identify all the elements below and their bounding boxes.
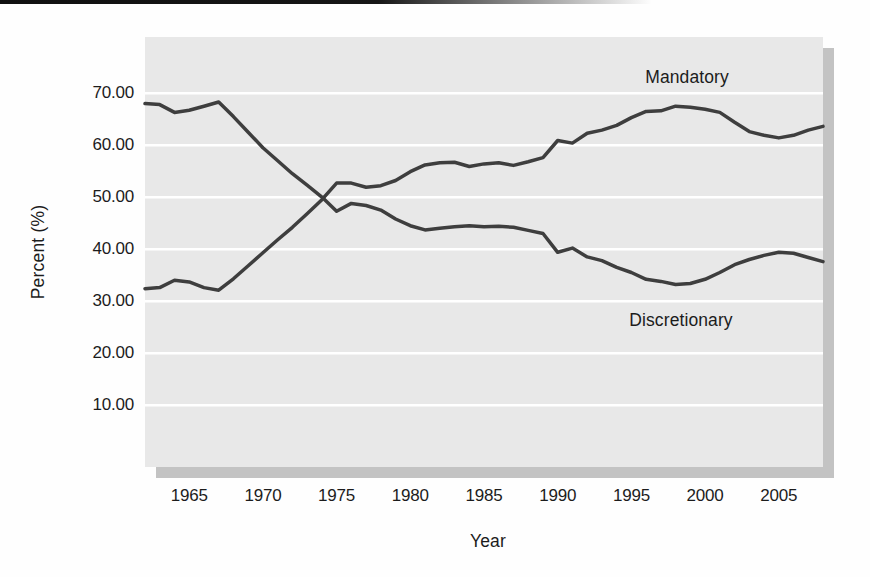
x-tick-label-2000: 2000 (673, 486, 737, 506)
x-tick-label-1965: 1965 (157, 486, 221, 506)
x-tick-label-1980: 1980 (378, 486, 442, 506)
y-axis-title: Percent (%) (28, 205, 49, 300)
x-axis-title: Year (470, 531, 506, 552)
x-tick-label-1985: 1985 (452, 486, 516, 506)
series-label-mandatory: Mandatory (645, 67, 729, 88)
x-tick-label-2005: 2005 (747, 486, 811, 506)
y-tick-label-60.00: 60.00 (58, 135, 134, 155)
x-tick-label-1970: 1970 (231, 486, 295, 506)
y-tick-label-30.00: 30.00 (58, 291, 134, 311)
plot-area (145, 37, 823, 467)
series-label-discretionary: Discretionary (629, 310, 732, 331)
y-tick-label-40.00: 40.00 (58, 239, 134, 259)
y-tick-label-20.00: 20.00 (58, 343, 134, 363)
x-tick-label-1975: 1975 (305, 486, 369, 506)
x-tick-label-1995: 1995 (599, 486, 663, 506)
y-tick-label-10.00: 10.00 (58, 395, 134, 415)
y-tick-label-50.00: 50.00 (58, 187, 134, 207)
y-tick-label-70.00: 70.00 (58, 83, 134, 103)
x-tick-label-1990: 1990 (526, 486, 590, 506)
scanned-chart-page: Percent (%) Year Mandatory Discretionary… (0, 0, 870, 577)
